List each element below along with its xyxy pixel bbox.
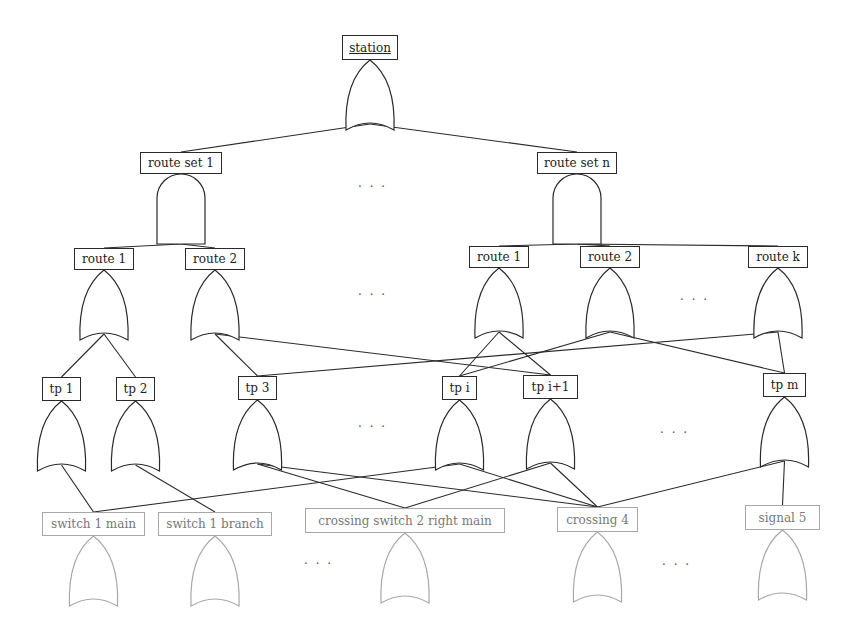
edge-tpm-sig5 [783,461,785,505]
event-label: signal 5 [759,511,807,525]
edge-r1b-tpi [460,332,500,376]
event-node-c4: crossing 4 [557,507,638,532]
fault-tree-diagram: stationroute set 1route set nroute 1rout… [0,0,853,620]
or-gate-icon [760,397,808,467]
event-node-cs2: crossing switch 2 right main [305,508,505,533]
event-node-tp1: tp 1 [42,377,81,401]
ellipsis: · · · [358,180,387,194]
or-gate-icon [435,400,483,470]
edge-tp3-cs2 [258,464,406,508]
edge-tp1-s1m [62,465,94,512]
edge-station-rsn [370,124,577,152]
event-node-rs1: route set 1 [140,152,222,174]
event-node-tpm: tp m [763,373,806,397]
or-gate-icon [586,268,634,338]
edge-r1b-tpi1 [499,332,551,375]
event-node-tp3: tp 3 [238,376,277,400]
event-label: tp 2 [124,382,148,396]
event-label: route 2 [193,252,237,266]
or-gate-icon [191,270,239,340]
edge-r2b-tpm [610,332,785,373]
edge-station-rs1 [181,124,370,152]
event-node-r2b: route 2 [580,246,640,268]
event-label: route k [756,250,800,264]
event-node-tpi1: tp i+1 [523,375,578,399]
event-node-station: station [342,35,398,60]
event-label: crossing 4 [566,513,629,527]
event-label: tp 3 [246,381,270,395]
or-gate-icon [111,401,159,471]
ellipsis: · · · [358,420,387,434]
event-label: route 2 [588,250,632,264]
ellipsis: · · · [662,558,691,572]
edge-rk-tpm [778,332,785,373]
or-gate-icon [754,268,802,338]
edge-r2a-tpi1 [215,334,551,375]
edge-tpi-s1m [94,464,460,512]
and-gate-icon [157,174,205,244]
event-label: route set n [544,156,610,170]
event-label: tp 1 [50,382,74,396]
or-gate-icon [233,400,281,470]
event-label: route set 1 [148,156,214,170]
or-gate-icon [573,532,621,602]
event-node-r2a: route 2 [185,248,245,270]
edge-r1a-tp2 [104,334,136,377]
edge-tpi-c4 [460,464,598,507]
event-node-tp2: tp 2 [116,377,155,401]
or-gate-icon [758,530,806,600]
event-label: tp i+1 [532,380,570,394]
ellipsis: · · · [680,293,709,307]
ellipsis: · · · [660,426,689,440]
edge-r2b-tpi [460,332,611,376]
or-gate-icon [37,401,85,471]
or-gate-icon [69,536,117,606]
event-node-tpi: tp i [442,376,477,400]
event-label: route 1 [477,250,521,264]
or-gate-icon [346,60,394,130]
edge-tpi1-c4 [551,463,598,507]
or-gate-icon [80,270,128,340]
event-label: route 1 [82,252,126,266]
event-node-s1m: switch 1 main [42,512,145,536]
ellipsis: · · · [304,557,333,571]
and-gate-icon [553,174,601,244]
or-gate-icon [381,533,429,603]
event-label: station [349,41,391,55]
edge-tpm-c4 [598,461,785,507]
edge-r1a-tp1 [62,334,105,377]
or-gate-icon [526,399,574,469]
event-label: crossing switch 2 right main [318,514,492,528]
event-node-s1b: switch 1 branch [158,512,272,536]
event-node-rsn: route set n [537,152,617,174]
event-label: tp m [771,378,799,392]
edge-r2a-tp3 [215,334,258,376]
edge-rk-tp3 [258,332,779,376]
event-node-r1a: route 1 [74,248,134,270]
event-node-rk: route k [748,246,808,268]
event-node-r1b: route 1 [469,246,529,268]
or-gate-icon [191,536,239,606]
event-label: switch 1 branch [166,517,264,531]
event-label: switch 1 main [51,517,136,531]
event-node-sig5: signal 5 [745,505,820,530]
ellipsis: · · · [358,288,387,302]
or-gate-icon [475,268,523,338]
event-label: tp i [449,381,469,395]
